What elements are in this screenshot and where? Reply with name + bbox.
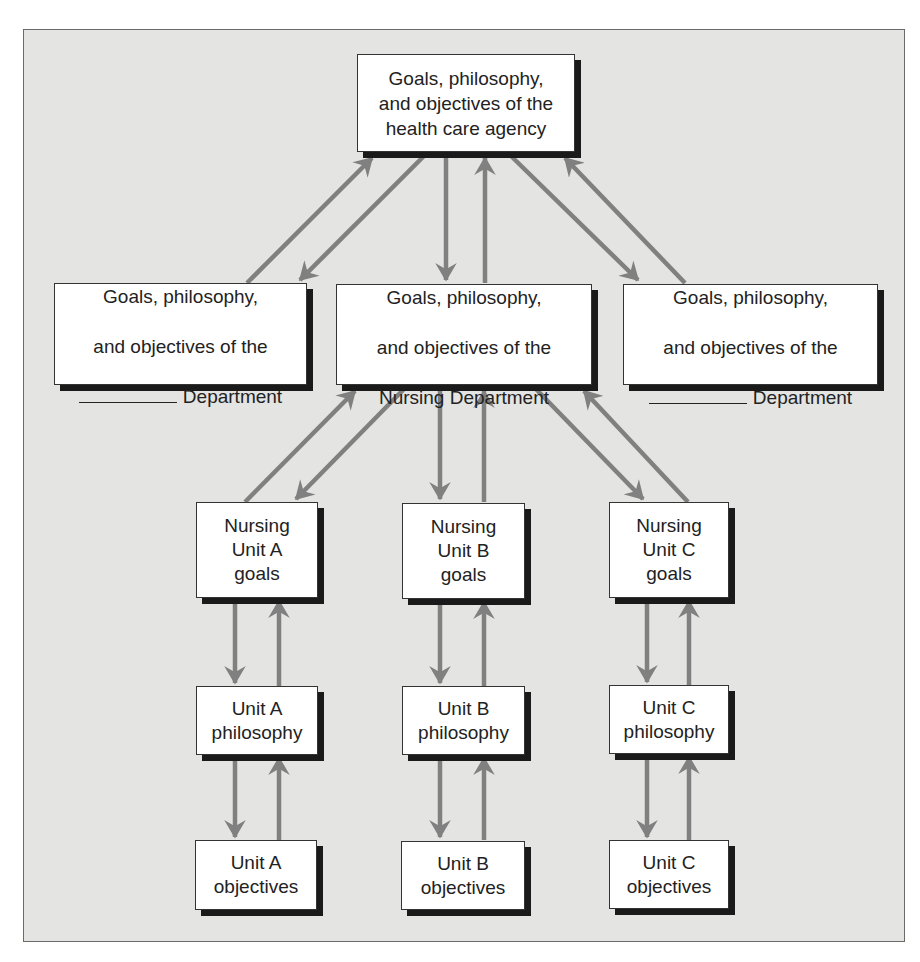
dept-line2: and objectives of the <box>377 337 551 358</box>
department-name-blank <box>649 385 747 404</box>
unit-c-goals-label: Nursing Unit C goals <box>636 514 701 586</box>
unit-a-philosophy-label: Unit A philosophy <box>212 697 303 745</box>
right-department-box: Goals, philosophy, and objectives of the… <box>623 284 878 385</box>
dept-line3: Nursing Department <box>379 387 549 408</box>
unit-a-goals-label: Nursing Unit A goals <box>224 514 289 586</box>
unit-b-philosophy-box: Unit B philosophy <box>402 686 525 755</box>
unit-b-objectives-label: Unit B objectives <box>421 852 506 900</box>
arrow-nursing-dept-to-unit-c <box>535 388 643 499</box>
unit-c-objectives-label: Unit C objectives <box>627 851 712 899</box>
dept-line1: Goals, philosophy, <box>673 287 828 308</box>
department-name-blank <box>79 384 177 403</box>
left-department-box: Goals, philosophy, and objectives of the… <box>54 283 307 385</box>
unit-b-philosophy-label: Unit B philosophy <box>418 697 509 745</box>
unit-a-objectives-label: Unit A objectives <box>214 851 299 899</box>
agency-label: Goals, philosophy, and objectives of the… <box>379 66 553 141</box>
dept-line1: Goals, philosophy, <box>103 286 258 307</box>
unit-a-goals-box: Nursing Unit A goals <box>196 502 318 598</box>
dept-line2: and objectives of the <box>663 337 837 358</box>
dept-line3: Department <box>753 387 852 408</box>
unit-b-objectives-box: Unit B objectives <box>401 841 525 910</box>
unit-c-philosophy-box: Unit C philosophy <box>609 685 729 754</box>
unit-c-objectives-box: Unit C objectives <box>609 840 729 909</box>
unit-b-goals-label: Nursing Unit B goals <box>431 515 496 587</box>
unit-c-philosophy-label: Unit C philosophy <box>624 696 715 744</box>
dept-line1: Goals, philosophy, <box>387 287 542 308</box>
unit-a-objectives-box: Unit A objectives <box>195 840 317 910</box>
nursing-department-box: Goals, philosophy, and objectives of the… <box>336 284 592 385</box>
unit-b-goals-box: Nursing Unit B goals <box>402 503 525 599</box>
agency-box: Goals, philosophy, and objectives of the… <box>357 54 575 152</box>
unit-a-philosophy-box: Unit A philosophy <box>196 686 318 755</box>
dept-line3: Department <box>183 386 282 407</box>
dept-line2: and objectives of the <box>93 336 267 357</box>
unit-c-goals-box: Nursing Unit C goals <box>609 502 729 598</box>
